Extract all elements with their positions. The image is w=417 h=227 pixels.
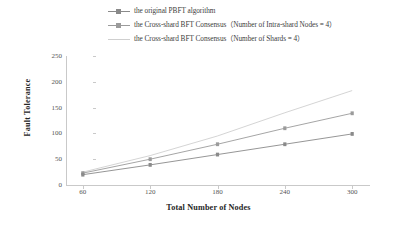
x-axis-title: Total Number of Nodes (0, 203, 417, 212)
chart-series-layer (0, 0, 417, 227)
series-data-point (149, 157, 152, 161)
series-data-point (81, 173, 84, 177)
series-data-point (216, 153, 219, 157)
series-data-point (351, 111, 354, 115)
series-data-point (283, 126, 286, 130)
series-data-point (216, 142, 219, 146)
series-data-point (351, 132, 354, 136)
fault-tolerance-line-chart: the original PBFT algorithm the Cross-sh… (0, 0, 417, 227)
series-data-point (283, 142, 286, 146)
y-axis-title: Fault Tolerance (23, 68, 32, 148)
series-data-point (149, 163, 152, 167)
series-line (83, 91, 352, 173)
